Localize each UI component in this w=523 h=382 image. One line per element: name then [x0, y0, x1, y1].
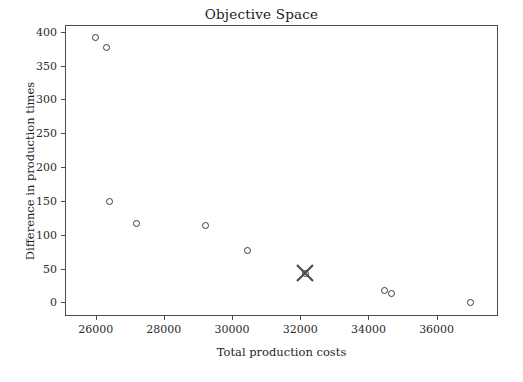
chart-title: Objective Space — [0, 6, 523, 22]
scatter-point[interactable] — [467, 299, 474, 306]
y-tick-label: 400 — [36, 25, 57, 38]
scatter-points-layer — [66, 26, 497, 315]
x-tick-label: 36000 — [419, 323, 454, 336]
scatter-point[interactable] — [244, 247, 251, 254]
x-tick-mark — [437, 316, 438, 320]
scatter-point[interactable] — [103, 44, 110, 51]
y-tick-label: 300 — [36, 93, 57, 106]
scatter-point[interactable] — [92, 34, 99, 41]
x-tick-mark — [368, 316, 369, 320]
x-tick-mark — [164, 316, 165, 320]
y-tick-label: 350 — [36, 59, 57, 72]
y-tick-label: 200 — [36, 161, 57, 174]
x-tick-label: 26000 — [78, 323, 113, 336]
figure-canvas: Objective Space Difference in production… — [0, 0, 523, 382]
x-tick-mark — [300, 316, 301, 320]
scatter-point[interactable] — [381, 287, 388, 294]
y-tick-label: 250 — [36, 127, 57, 140]
y-tick-label: 0 — [50, 296, 57, 309]
x-tick-label: 30000 — [215, 323, 250, 336]
plot-area — [65, 25, 498, 316]
scatter-point[interactable] — [302, 270, 309, 277]
x-tick-label: 28000 — [146, 323, 181, 336]
x-tick-label: 34000 — [351, 323, 386, 336]
scatter-point[interactable] — [202, 222, 209, 229]
x-tick-label: 32000 — [283, 323, 318, 336]
y-tick-label: 50 — [43, 262, 57, 275]
x-tick-mark — [232, 316, 233, 320]
x-axis-label: Total production costs — [65, 345, 498, 359]
y-tick-label: 150 — [36, 194, 57, 207]
scatter-point[interactable] — [133, 220, 140, 227]
x-tick-mark — [96, 316, 97, 320]
scatter-point[interactable] — [388, 290, 395, 297]
y-tick-label: 100 — [36, 228, 57, 241]
y-axis-label: Difference in production times — [23, 26, 37, 317]
scatter-point[interactable] — [106, 198, 113, 205]
